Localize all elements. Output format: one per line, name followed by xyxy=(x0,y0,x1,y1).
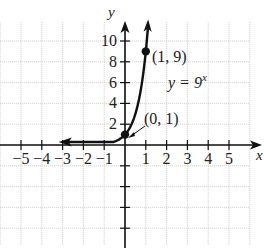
axes xyxy=(0,21,262,248)
point-label-1-9: (1, 9) xyxy=(152,48,187,66)
equation-main: y = 9 xyxy=(166,74,202,92)
x-axis-label: x xyxy=(255,147,263,163)
equation-label: y = 9x xyxy=(166,71,207,92)
y-tick-label: 8 xyxy=(109,53,117,70)
y-axis-label: y xyxy=(106,4,115,20)
x-tick-label: 4 xyxy=(204,150,212,167)
x-tick-label: −2 xyxy=(75,150,92,167)
x-tick-label: 1 xyxy=(142,150,150,167)
y-tick-label: 10 xyxy=(101,32,117,49)
data-point xyxy=(142,47,150,55)
point-label-0-1: (0, 1) xyxy=(144,110,179,128)
x-tick-label: −1 xyxy=(96,150,113,167)
x-tick-label: 2 xyxy=(163,150,171,167)
exponential-graph: −5−4−3−2−112345246810 x y (1, 9) (0, 1) … xyxy=(0,0,264,250)
x-tick-label: −5 xyxy=(12,150,29,167)
y-tick-label: 6 xyxy=(109,74,117,91)
y-tick-label: 2 xyxy=(109,115,117,132)
x-tick-label: −3 xyxy=(54,150,71,167)
x-tick-label: 5 xyxy=(225,150,233,167)
tick-labels: −5−4−3−2−112345246810 xyxy=(12,32,233,167)
x-tick-label: 3 xyxy=(183,150,191,167)
equation-exponent: x xyxy=(201,71,207,83)
y-tick-label: 4 xyxy=(109,94,117,111)
x-tick-label: −4 xyxy=(33,150,50,167)
data-point xyxy=(121,130,129,138)
